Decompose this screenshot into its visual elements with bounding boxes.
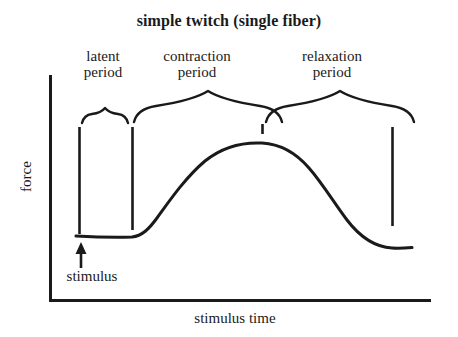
twitch-diagram-figure: simple twitch (single fiber) latent peri… — [0, 0, 458, 337]
phase-label-latent-period: latent period — [62, 48, 144, 80]
phase-label-relaxation-line1: relaxation — [302, 48, 362, 64]
stimulus-arrow-icon — [76, 242, 87, 268]
force-curve — [76, 143, 412, 248]
phase-label-latent-line1: latent — [86, 48, 119, 64]
phase-label-contraction-line2: period — [136, 64, 258, 80]
brace-latent-period — [82, 108, 128, 123]
phase-label-latent-line2: period — [62, 64, 144, 80]
phase-label-contraction-period: contraction period — [136, 48, 258, 80]
brace-contraction-period — [134, 91, 282, 122]
phase-label-contraction-line1: contraction — [163, 48, 230, 64]
x-axis-label: stimulus time — [110, 310, 360, 327]
figure-title: simple twitch (single fiber) — [0, 12, 458, 30]
stimulus-annotation-label: stimulus — [44, 268, 140, 285]
brace-relaxation-period — [266, 91, 414, 122]
y-axis-label: force — [18, 147, 35, 207]
phase-label-relaxation-period: relaxation period — [270, 48, 394, 80]
phase-label-relaxation-line2: period — [270, 64, 394, 80]
